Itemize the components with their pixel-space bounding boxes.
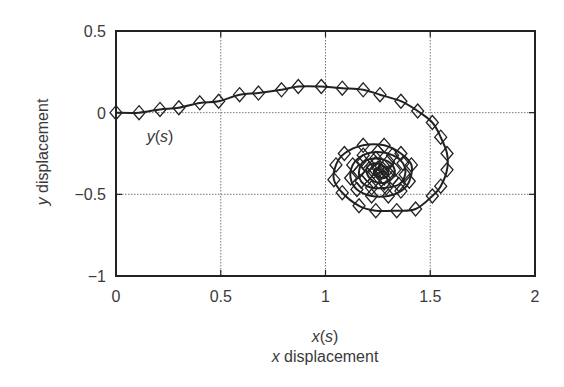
x-tick-label: 0.5 [210, 288, 232, 305]
y-tick-label: 0 [97, 105, 106, 122]
x-tick-labels: 00.511.52 [112, 288, 540, 305]
y-tick-label: −1 [88, 268, 106, 285]
x-tick-label: 0 [112, 288, 121, 305]
x-tick-label: 1 [321, 288, 330, 305]
y-tick-label: 0.5 [84, 23, 106, 40]
x-axis-label: x(s) [311, 328, 339, 345]
y-axis-label: y displacement [34, 98, 51, 206]
trajectory-series [110, 80, 453, 218]
y-tick-labels: 0.50−0.5−1 [74, 23, 106, 285]
y-tick-label: −0.5 [74, 186, 106, 203]
x-tick-label: 1.5 [419, 288, 441, 305]
x-axis-sublabel: x displacement [271, 348, 379, 365]
trajectory-chart: 00.511.52 0.50−0.5−1 y(s) x(s) x displac… [0, 0, 564, 387]
x-tick-label: 2 [531, 288, 540, 305]
grid-lines [116, 31, 535, 276]
curve-annotation: y(s) [146, 128, 174, 145]
